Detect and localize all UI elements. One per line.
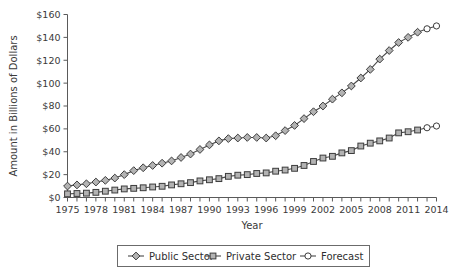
- square-marker: [197, 178, 203, 184]
- diamond-marker: [281, 127, 289, 135]
- diamond-marker: [414, 28, 422, 36]
- diamond-marker: [130, 167, 138, 175]
- y-tick-label: $160: [36, 9, 60, 20]
- square-marker: [74, 191, 80, 197]
- x-tick-label: 1984: [141, 204, 165, 215]
- square-marker: [102, 188, 108, 194]
- y-tick-label: $120: [36, 55, 60, 66]
- square-marker: [311, 159, 317, 165]
- diamond-marker: [253, 134, 261, 142]
- square-marker: [273, 168, 279, 174]
- square-marker: [377, 138, 383, 144]
- forecast-marker: [424, 125, 430, 131]
- legend-label: Private Sector: [226, 251, 297, 262]
- forecast-marker: [433, 23, 439, 29]
- square-marker: [178, 181, 184, 187]
- square-marker: [405, 129, 411, 135]
- x-tick-label: 1987: [169, 204, 193, 215]
- y-tick-label: $140: [36, 32, 60, 43]
- data-series-group: [64, 23, 440, 197]
- diamond-marker: [291, 122, 299, 130]
- diamond-marker: [338, 89, 346, 97]
- y-tick-label: $0: [48, 192, 60, 203]
- diamond-marker: [101, 176, 109, 184]
- square-marker: [159, 183, 165, 189]
- chart-legend: Public SectorPrivate SectorForecast: [118, 246, 370, 267]
- x-tick-label: 1981: [112, 204, 136, 215]
- square-marker: [188, 180, 194, 186]
- diamond-marker: [158, 159, 166, 167]
- line-chart: $0$20$40$60$80$100$120$140$160 197519781…: [0, 0, 456, 277]
- x-tick-label: 1978: [84, 204, 108, 215]
- x-tick-label: 2014: [424, 204, 448, 215]
- y-tick-label: $40: [42, 146, 60, 157]
- x-tick-label: 1996: [254, 204, 278, 215]
- diamond-marker: [168, 157, 176, 165]
- square-marker: [320, 155, 326, 161]
- square-marker: [358, 143, 364, 149]
- square-marker: [169, 182, 175, 188]
- square-marker: [292, 165, 298, 171]
- diamond-marker: [64, 182, 72, 190]
- diamond-marker: [206, 141, 214, 149]
- diamond-marker: [73, 181, 81, 189]
- square-marker: [415, 127, 421, 133]
- diamond-marker: [319, 102, 327, 110]
- series-private-sector: [65, 123, 440, 197]
- x-tick-label: 2002: [311, 204, 335, 215]
- diamond-marker: [83, 180, 91, 188]
- x-tick-label: 2005: [339, 204, 363, 215]
- square-marker: [216, 176, 222, 182]
- diamond-marker: [262, 134, 270, 142]
- diamond-marker: [177, 154, 185, 162]
- diamond-marker: [187, 150, 195, 158]
- x-tick-label: 1975: [55, 204, 79, 215]
- diamond-marker: [310, 108, 318, 116]
- diamond-marker: [111, 174, 119, 182]
- square-marker: [207, 177, 213, 183]
- diamond-marker: [196, 146, 204, 154]
- y-tick-label: $80: [42, 100, 60, 111]
- square-marker: [386, 135, 392, 141]
- square-marker: [121, 186, 127, 192]
- x-tick-label: 2011: [396, 204, 420, 215]
- square-marker: [330, 153, 336, 159]
- square-marker: [348, 148, 354, 154]
- square-marker: [225, 173, 231, 179]
- diamond-marker: [149, 162, 157, 170]
- square-marker: [93, 189, 99, 195]
- x-tick-label: 2008: [368, 204, 392, 215]
- square-marker: [367, 140, 373, 146]
- chart-container: $0$20$40$60$80$100$120$140$160 197519781…: [0, 0, 456, 277]
- series-line: [68, 126, 437, 194]
- diamond-marker: [272, 132, 280, 140]
- diamond-marker: [329, 95, 337, 103]
- series-line: [68, 26, 437, 186]
- square-marker: [244, 172, 250, 178]
- legend-label: Public Sector: [149, 251, 215, 262]
- square-marker: [282, 167, 288, 173]
- square-marker: [254, 171, 260, 177]
- diamond-marker: [215, 137, 223, 145]
- y-tick-label: $20: [42, 169, 60, 180]
- diamond-marker: [300, 115, 308, 123]
- forecast-marker: [433, 123, 439, 129]
- y-tick-label: $100: [36, 78, 60, 89]
- square-marker: [210, 253, 216, 259]
- square-marker: [396, 130, 402, 136]
- x-axis: 1975197819811984198719901993199619992002…: [55, 198, 448, 215]
- square-marker: [339, 150, 345, 156]
- square-marker: [301, 163, 307, 169]
- y-axis-title: Amount in Billions of Dollars: [8, 35, 19, 176]
- square-marker: [65, 191, 71, 197]
- forecast-marker: [424, 26, 430, 32]
- forecast-marker: [305, 253, 311, 259]
- series-public-sector: [64, 23, 440, 190]
- square-marker: [235, 172, 241, 178]
- square-marker: [263, 170, 269, 176]
- x-tick-label: 1993: [226, 204, 250, 215]
- diamond-marker: [404, 33, 412, 41]
- square-marker: [140, 185, 146, 191]
- x-tick-label: 1990: [197, 204, 221, 215]
- square-marker: [112, 187, 118, 193]
